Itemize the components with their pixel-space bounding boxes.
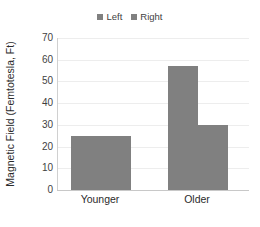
gridline [58, 38, 249, 39]
bar-younger-left [71, 136, 101, 190]
bar-older-right [198, 125, 228, 190]
y-tick-label: 20 [1, 142, 53, 152]
y-tick-label: 0 [1, 185, 53, 195]
y-tick-label: 40 [1, 98, 53, 108]
y-tick-label: 70 [1, 33, 53, 43]
gridline [58, 103, 249, 104]
y-tick-label: 50 [1, 76, 53, 86]
y-tick-label: 60 [1, 55, 53, 65]
bar-older-left [168, 66, 198, 190]
plot-area [57, 38, 249, 190]
x-axis-line [57, 190, 249, 191]
gridline [58, 81, 249, 82]
x-tick-label-younger: Younger [81, 194, 120, 206]
legend-label-left: Left [106, 12, 122, 22]
bar-younger-right [101, 136, 131, 190]
bar-chart: Left Right Magnetic Field (Femtotesla, F… [0, 0, 260, 227]
legend-swatch-right [131, 14, 137, 20]
legend-swatch-left [97, 14, 103, 20]
legend-item-left: Left [97, 12, 122, 22]
x-axis-tick-labels: Younger Older [57, 194, 249, 210]
y-tick-label: 30 [1, 120, 53, 130]
legend-item-right: Right [131, 12, 162, 22]
x-tick-label-older: Older [184, 194, 210, 206]
y-tick-label: 10 [1, 163, 53, 173]
legend-label-right: Right [140, 12, 162, 22]
gridline [58, 60, 249, 61]
y-axis-tick-labels: 70 60 50 40 30 20 10 0 [0, 0, 53, 227]
